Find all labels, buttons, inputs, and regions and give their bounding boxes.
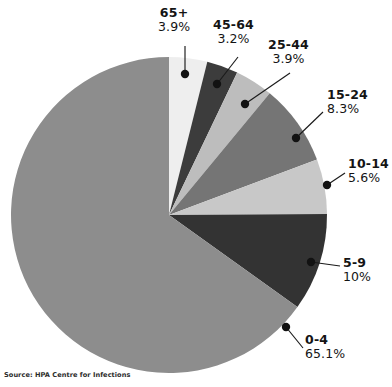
callout-15-24-category-label: 15-24 bbox=[327, 88, 368, 102]
callout-15-24: 15-248.3% bbox=[327, 88, 368, 115]
callout-65-plus-category-label: 65+ bbox=[158, 6, 190, 20]
callout-5-9: 5-910% bbox=[343, 256, 371, 283]
callout-45-64-percent-value: 3.2% bbox=[213, 32, 254, 46]
callout-65-plus: 65+3.9% bbox=[158, 6, 190, 33]
callout-5-9-category-label: 5-9 bbox=[343, 256, 371, 270]
callout-15-24-marker-dot bbox=[292, 134, 300, 142]
pie-chart-svg bbox=[0, 0, 392, 387]
callout-10-14-category-label: 10-14 bbox=[348, 157, 389, 171]
callout-0-4-category-label: 0-4 bbox=[305, 333, 345, 347]
callout-25-44-category-label: 25-44 bbox=[268, 38, 309, 52]
callout-10-14: 10-145.6% bbox=[348, 157, 389, 184]
callout-15-24-leader-line bbox=[296, 112, 323, 138]
callout-65-plus-percent-value: 3.9% bbox=[158, 20, 190, 34]
pie-slice-group bbox=[11, 57, 327, 373]
callout-0-4: 0-465.1% bbox=[305, 333, 345, 360]
callout-5-9-marker-dot bbox=[307, 258, 315, 266]
callout-0-4-percent-value: 65.1% bbox=[305, 347, 345, 361]
callout-25-44-percent-value: 3.9% bbox=[268, 52, 309, 66]
callout-0-4-marker-dot bbox=[282, 323, 290, 331]
callout-45-64-category-label: 45-64 bbox=[213, 18, 254, 32]
pie-chart-figure: 65+3.9%45-643.2%25-443.9%15-248.3%10-145… bbox=[0, 0, 392, 387]
callout-5-9-percent-value: 10% bbox=[343, 270, 371, 284]
callout-15-24-percent-value: 8.3% bbox=[327, 102, 368, 116]
callout-10-14-marker-dot bbox=[323, 181, 331, 189]
callout-45-64: 45-643.2% bbox=[213, 18, 254, 45]
callout-25-44: 25-443.9% bbox=[268, 38, 309, 65]
callout-65-plus-marker-dot bbox=[181, 70, 189, 78]
callout-10-14-percent-value: 5.6% bbox=[348, 171, 389, 185]
callout-25-44-marker-dot bbox=[241, 100, 249, 108]
callout-45-64-marker-dot bbox=[213, 80, 221, 88]
source-note: Source: HPA Centre for Infections bbox=[4, 371, 130, 379]
